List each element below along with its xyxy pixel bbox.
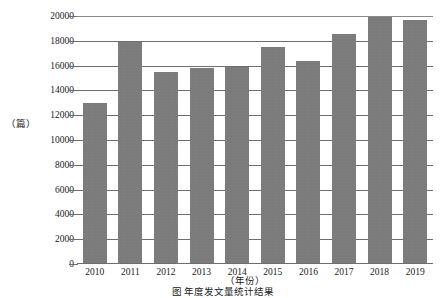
plot-area	[77, 16, 433, 264]
y-axis-tick-label: 12000	[28, 110, 74, 120]
figure-caption: 图 年度发文量统计结果	[0, 287, 446, 298]
y-axis-tick-label: 10000	[28, 135, 74, 145]
y-axis-tick-mark	[69, 264, 78, 265]
bar	[403, 20, 427, 263]
bar	[296, 61, 320, 263]
y-axis-tick-label-group: 2000018000160001400012000100008000600040…	[28, 0, 74, 265]
y-axis-tick-label: 0	[28, 259, 74, 269]
y-axis-tick-label: 2000	[28, 234, 74, 244]
y-axis-tick-label: 6000	[28, 185, 74, 195]
bar	[225, 67, 249, 263]
bar	[118, 42, 142, 263]
bar	[154, 72, 178, 263]
y-axis-tick-label: 16000	[28, 61, 74, 71]
y-axis-tick-label: 4000	[28, 209, 74, 219]
y-axis-tick-label: 8000	[28, 160, 74, 170]
x-axis-line	[77, 263, 433, 264]
bar	[83, 103, 107, 263]
y-axis-tick-label: 20000	[28, 11, 74, 21]
x-axis-title: （年份）	[0, 276, 446, 287]
bar	[332, 34, 356, 263]
x-axis-title-text: （年份）	[225, 276, 265, 286]
bar	[261, 47, 285, 263]
y-axis-tick-label: 14000	[28, 85, 74, 95]
y-axis-tick-label: 18000	[28, 36, 74, 46]
bar	[190, 68, 214, 263]
bar-group	[77, 16, 433, 264]
bar	[368, 17, 392, 263]
